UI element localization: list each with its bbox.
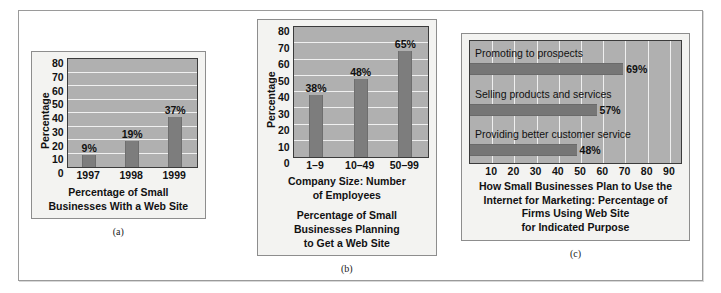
chart-b-xaxis-title: Company Size: Number of Employees bbox=[288, 175, 406, 202]
xtick-label: 1997 bbox=[77, 169, 100, 181]
xtick-label: 80 bbox=[641, 165, 653, 177]
bar-category-label: Promoting to prospects bbox=[475, 47, 583, 59]
chart-b-yaxis-title: Percentage bbox=[265, 26, 277, 173]
xtick-label: 60 bbox=[596, 165, 608, 177]
chart-b-xtick-labels: 1–910–4950–99 bbox=[293, 158, 429, 173]
chart-b-body: Percentage 80706050403020100 38%48%65% 1… bbox=[265, 26, 429, 173]
bar bbox=[470, 63, 623, 75]
xtick-label: 70 bbox=[619, 165, 631, 177]
xtick-label: 1999 bbox=[163, 169, 186, 181]
chart-a-body: Percentage 80706050403020100 9%19%37% 19… bbox=[39, 58, 198, 183]
xtick-label: 50–99 bbox=[390, 159, 419, 171]
bar-value-label: 65% bbox=[383, 38, 427, 50]
gridline bbox=[670, 41, 671, 163]
bar-value-label: 19% bbox=[110, 128, 154, 140]
bar-value-label: 9% bbox=[67, 142, 111, 154]
xtick-label: 50 bbox=[574, 165, 586, 177]
xtick-label: 1–9 bbox=[306, 159, 324, 171]
bar-category-label: Selling products and services bbox=[475, 88, 612, 100]
bar bbox=[309, 95, 323, 157]
gridline bbox=[648, 41, 649, 163]
xtick-label: 40 bbox=[552, 165, 564, 177]
chart-a-plot-area: 9%19%37% bbox=[67, 58, 198, 168]
chart-card-a: Percentage 80706050403020100 9%19%37% 19… bbox=[31, 51, 206, 219]
chart-c-plot-area: Promoting to prospects69%Selling product… bbox=[469, 40, 682, 164]
figure-frame: Percentage 80706050403020100 9%19%37% 19… bbox=[18, 10, 703, 281]
chart-b-caption: Percentage of Small Businesses Planning … bbox=[294, 209, 400, 250]
xtick-label: 1998 bbox=[120, 169, 143, 181]
bar-value-label: 38% bbox=[294, 82, 338, 94]
chart-b-plot-area: 38%48%65% bbox=[293, 26, 429, 158]
panel-b-letter: (b) bbox=[341, 263, 353, 274]
bar bbox=[398, 51, 412, 157]
gridline bbox=[625, 41, 626, 163]
xtick-label: 30 bbox=[530, 165, 542, 177]
chart-c-caption: How Small Businesses Plan to Use the Int… bbox=[479, 180, 672, 235]
bar-value-label: 48% bbox=[339, 66, 383, 78]
panel-c: Promoting to prospects69%Selling product… bbox=[461, 33, 690, 259]
bar-value-label: 37% bbox=[153, 104, 197, 116]
bar-value-label: 48% bbox=[580, 144, 601, 156]
xtick-label: 90 bbox=[663, 165, 675, 177]
gridline bbox=[68, 99, 197, 100]
xtick-label: 20 bbox=[508, 165, 520, 177]
bar bbox=[470, 144, 577, 156]
bar bbox=[82, 155, 96, 167]
gridline bbox=[68, 72, 197, 73]
xtick-label: 10 bbox=[485, 165, 497, 177]
gridline bbox=[68, 58, 197, 59]
gridline bbox=[294, 26, 428, 27]
panel-a-letter: (a) bbox=[113, 226, 124, 237]
chart-a-xtick-labels: 199719981999 bbox=[67, 168, 198, 183]
bar bbox=[470, 104, 597, 116]
chart-a-caption: Percentage of Small Businesses With a We… bbox=[48, 186, 188, 213]
xtick-label: 10–49 bbox=[345, 159, 374, 171]
gridline bbox=[603, 41, 604, 163]
chart-b-ytick-labels: 80706050403020100 bbox=[278, 26, 293, 158]
panel-a: Percentage 80706050403020100 9%19%37% 19… bbox=[31, 51, 206, 237]
chart-card-c: Promoting to prospects69%Selling product… bbox=[461, 33, 690, 241]
gridline bbox=[68, 85, 197, 86]
chart-c-xtick-labels: 102030405060708090 bbox=[469, 164, 682, 179]
chart-card-b: Percentage 80706050403020100 38%48%65% 1… bbox=[257, 19, 437, 256]
bar bbox=[168, 117, 182, 167]
chart-a-ytick-labels: 80706050403020100 bbox=[52, 58, 67, 168]
chart-a-yaxis-title: Percentage bbox=[39, 58, 51, 183]
bar-value-label: 57% bbox=[600, 104, 621, 116]
panel-c-letter: (c) bbox=[570, 248, 581, 259]
panel-b: Percentage 80706050403020100 38%48%65% 1… bbox=[257, 19, 437, 274]
bar bbox=[354, 79, 368, 157]
bar-value-label: 69% bbox=[626, 63, 647, 75]
bar-category-label: Providing better customer service bbox=[475, 128, 631, 140]
bar bbox=[125, 141, 139, 167]
